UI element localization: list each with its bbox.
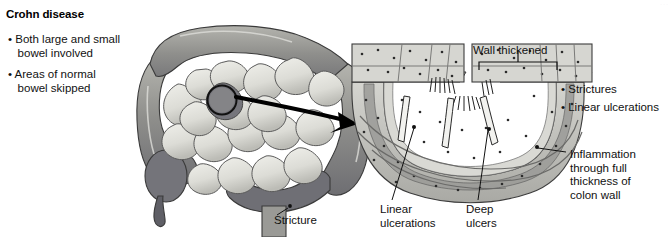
- bullet-linear-ulcerations: • Linear ulcerations: [561, 101, 659, 115]
- label-deep-ulcers: Deep ulcers: [466, 203, 497, 230]
- bullet-both-bowel: • Both large and small bowel involved: [8, 33, 120, 60]
- mucosa-layer: [384, 82, 556, 176]
- small-intestine: [162, 58, 344, 195]
- whole-bowel-illustration: [137, 24, 371, 237]
- colon-wall-cross-section: [352, 44, 592, 203]
- label-wall-thickened: Wall thickened: [473, 44, 547, 58]
- bullet-skip-lesions: • Areas of normal bowel skipped: [8, 68, 96, 95]
- bullet-strictures: • Strictures: [561, 83, 617, 97]
- faint-header-text: · · ·: [660, 1, 668, 7]
- crohn-disease-figure: · · · Crohn disease • Both large and sma…: [0, 0, 672, 237]
- leader-anchor-dots: [412, 125, 539, 149]
- label-inflammation: Inflammation through full thickness of c…: [570, 148, 636, 202]
- stricture-anchor-dot: [288, 204, 292, 208]
- deep-ulcers: [398, 96, 498, 148]
- cut-slab-left: [352, 44, 464, 82]
- label-linear-ulcerations: Linear ulcerations: [380, 203, 436, 230]
- label-stricture: Stricture: [274, 214, 317, 228]
- magnifier-lens: [210, 88, 235, 113]
- page-title: Crohn disease: [6, 8, 84, 20]
